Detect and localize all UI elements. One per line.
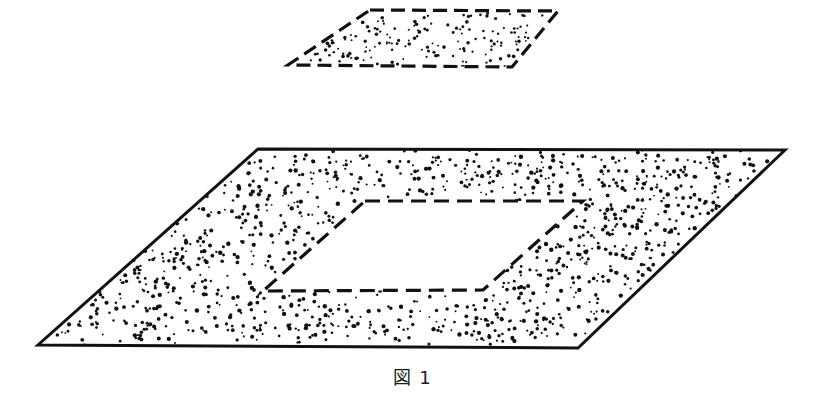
figure-container: 図 1 xyxy=(0,0,825,414)
figure-caption: 図 1 xyxy=(0,366,825,390)
page-background xyxy=(0,0,825,414)
figure-drawing xyxy=(0,0,825,414)
